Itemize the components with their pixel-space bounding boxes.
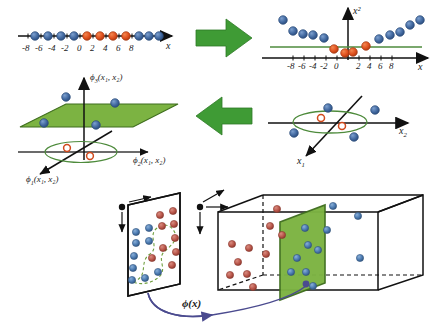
tick-label: 0 — [77, 44, 82, 53]
data-point-blue — [350, 133, 359, 142]
data-point-blue — [145, 237, 152, 244]
data-point-red — [273, 205, 280, 212]
green-arrow-left-icon — [196, 97, 252, 135]
data-point-blue — [371, 106, 380, 115]
data-point-red — [249, 283, 256, 290]
data-point-blue — [356, 254, 363, 261]
tick-label: -2 — [61, 44, 69, 53]
data-point-blue — [406, 21, 415, 30]
x2-axis-label: x2 — [399, 126, 407, 139]
tick-label: -8 — [22, 44, 30, 53]
data-point-red — [349, 48, 358, 57]
data-point-blue — [57, 32, 66, 41]
x1-axis — [306, 96, 362, 156]
data-point-blue — [132, 239, 139, 246]
tick-label: -6 — [35, 44, 43, 53]
data-point-blue — [145, 32, 154, 41]
data-point-blue — [132, 228, 139, 235]
phi1-axis-label: ϕ1(x₁, x₂) — [26, 175, 58, 186]
tick-label: 8 — [389, 62, 394, 71]
data-point-blue — [314, 246, 321, 253]
origin-marker — [197, 204, 203, 210]
data-point-red — [96, 32, 105, 41]
data-point-blue — [154, 268, 161, 275]
x-axis-label: x — [166, 41, 170, 51]
data-point-red — [266, 222, 273, 229]
data-point-blue — [323, 226, 330, 233]
data-point-red — [169, 207, 176, 214]
data-point-red — [318, 115, 325, 122]
data-point-blue — [155, 32, 164, 41]
phi-args: (x₁, x₂) — [34, 174, 59, 184]
phi3-axis-label: ϕ3(x₁, x₂) — [90, 73, 122, 84]
data-point-blue — [128, 276, 135, 283]
data-point-blue — [304, 241, 311, 248]
data-point-red — [158, 222, 165, 229]
green-arrow-right-icon — [196, 19, 252, 57]
map-arrow-endpoint — [303, 281, 310, 288]
data-point-blue — [31, 32, 40, 41]
data-point-blue — [293, 254, 300, 261]
data-point-blue — [111, 99, 120, 108]
data-point-red — [228, 240, 235, 247]
tick-label: -4 — [48, 44, 56, 53]
axis-arrow-depth — [203, 190, 224, 202]
data-point-red — [148, 254, 155, 261]
data-point-blue — [396, 28, 405, 37]
parabola-points — [279, 16, 425, 58]
data-point-red — [171, 234, 178, 241]
tick-label: 2 — [356, 62, 361, 71]
data-point-red — [109, 32, 118, 41]
tick-label: 6 — [378, 62, 383, 71]
data-point-red — [64, 145, 71, 152]
data-point-red — [243, 270, 250, 277]
tick-label: -8 — [287, 62, 295, 71]
tick-label: 6 — [116, 44, 121, 53]
x-subscript: 2 — [403, 131, 406, 138]
data-point-blue — [62, 93, 71, 102]
panel-mid-right — [268, 96, 408, 156]
data-point-blue — [299, 30, 308, 39]
data-point-blue — [141, 274, 148, 281]
data-point-blue — [92, 121, 101, 130]
data-point-blue — [289, 27, 298, 36]
tick-label: 2 — [90, 44, 95, 53]
data-point-red — [156, 211, 163, 218]
data-point-red — [168, 261, 175, 268]
data-point-blue — [130, 252, 137, 259]
data-point-blue — [135, 32, 144, 41]
input-space-plane — [119, 193, 180, 296]
data-point-blue — [70, 32, 79, 41]
origin-marker — [119, 204, 125, 210]
x-axis-label: x — [418, 62, 422, 72]
data-point-red — [234, 258, 241, 265]
phi-args: (x₁, x₂) — [141, 155, 166, 165]
data-point-red — [172, 248, 179, 255]
data-point-blue — [145, 224, 152, 231]
data-point-red — [170, 220, 177, 227]
data-point-red — [83, 32, 92, 41]
data-point-blue — [324, 104, 333, 113]
data-point-red — [362, 42, 371, 51]
tick-label: -4 — [309, 62, 317, 71]
panel-top-right — [262, 8, 428, 61]
data-point-blue — [354, 212, 361, 219]
data-point-blue — [279, 16, 288, 25]
data-point-blue — [40, 119, 49, 128]
data-point-blue — [416, 16, 425, 25]
data-point-blue — [309, 31, 318, 40]
data-point-red — [87, 153, 94, 160]
panel-bottom — [119, 190, 423, 316]
data-point-blue — [375, 35, 384, 44]
feature-space-box — [197, 190, 423, 300]
tick-label: 4 — [367, 62, 372, 71]
data-point-blue — [320, 34, 329, 43]
data-point-blue — [386, 31, 395, 40]
data-point-red — [278, 231, 285, 238]
tick-label: 4 — [103, 44, 108, 53]
phi-args: (x₁, x₂) — [98, 72, 123, 82]
number-line-points — [31, 32, 164, 41]
data-point-blue — [302, 268, 309, 275]
data-point-blue — [329, 202, 336, 209]
data-point-blue — [44, 32, 53, 41]
